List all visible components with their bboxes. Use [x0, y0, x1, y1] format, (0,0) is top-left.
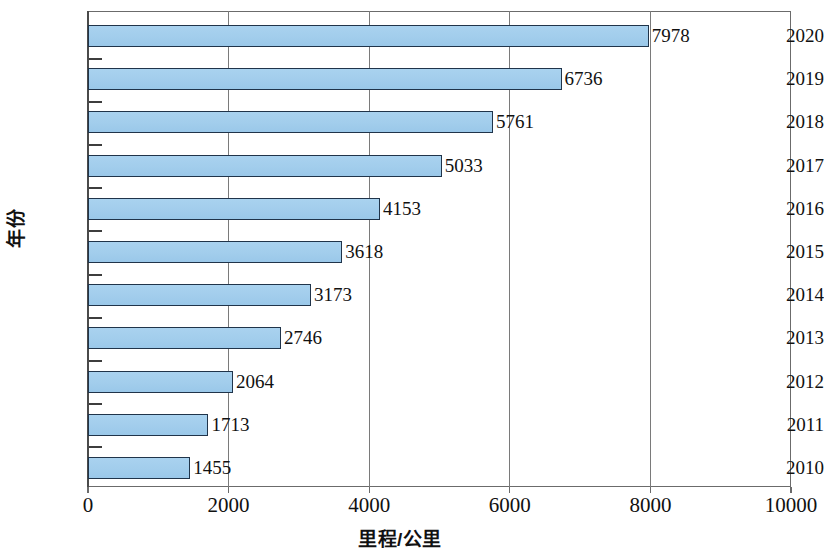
- y-axis-minor-tick: [89, 230, 102, 232]
- gridline-8000: [650, 11, 651, 487]
- bar-value-label-2014: 3173: [314, 284, 352, 306]
- x-axis-tick-label-6000: 6000: [489, 492, 531, 518]
- bar-2020: [88, 25, 649, 47]
- bar-2012: [88, 371, 233, 393]
- bar-2017: [88, 155, 442, 177]
- y-axis-category-label-2010: 2010: [742, 457, 824, 479]
- bar-value-label-2013: 2746: [284, 327, 322, 349]
- bar-2016: [88, 198, 380, 220]
- x-axis-tick-label-4000: 4000: [348, 492, 390, 518]
- bar-2011: [88, 414, 208, 436]
- y-axis-minor-tick: [89, 58, 102, 60]
- y-axis-title: 年份: [1, 200, 28, 256]
- x-axis-tick-label-8000: 8000: [629, 492, 671, 518]
- bar-2013: [88, 327, 281, 349]
- y-axis-category-label-2018: 2018: [742, 111, 824, 133]
- y-axis-category-label-2014: 2014: [742, 284, 824, 306]
- y-axis-minor-tick: [89, 144, 102, 146]
- y-axis-minor-tick: [89, 403, 102, 405]
- bar-value-label-2020: 7978: [652, 25, 690, 47]
- bar-value-label-2015: 3618: [345, 241, 383, 263]
- y-axis-category-label-2017: 2017: [742, 155, 824, 177]
- y-axis-minor-tick: [89, 446, 102, 448]
- bar-value-label-2012: 2064: [236, 371, 274, 393]
- y-axis-category-label-2015: 2015: [742, 241, 824, 263]
- x-axis-title: 里程/公里: [0, 524, 824, 551]
- y-axis-minor-tick: [89, 360, 102, 362]
- y-axis-minor-tick: [89, 101, 102, 103]
- bar-2010: [88, 457, 190, 479]
- y-axis-category-label-2011: 2011: [742, 414, 824, 436]
- bar-chart: 7978673657615033415336183173274620641713…: [0, 0, 824, 553]
- y-axis-category-label-2019: 2019: [742, 68, 824, 90]
- bar-value-label-2010: 1455: [193, 457, 231, 479]
- y-axis-category-label-2020: 2020: [742, 25, 824, 47]
- bar-value-label-2016: 4153: [383, 198, 421, 220]
- bar-2018: [88, 111, 493, 133]
- y-axis-category-label-2016: 2016: [742, 198, 824, 220]
- bar-2014: [88, 284, 311, 306]
- x-axis-tick-label-10000: 10000: [765, 492, 818, 518]
- bar-value-label-2019: 6736: [565, 68, 603, 90]
- bar-2015: [88, 241, 342, 263]
- bar-value-label-2011: 1713: [211, 414, 249, 436]
- y-axis-minor-tick: [89, 274, 102, 276]
- bar-value-label-2017: 5033: [445, 155, 483, 177]
- x-axis-tick-label-2000: 2000: [208, 492, 250, 518]
- bar-value-label-2018: 5761: [496, 111, 534, 133]
- y-axis-minor-tick: [89, 317, 102, 319]
- x-axis-title-text: 里程/公里: [358, 524, 442, 551]
- bar-2019: [88, 68, 562, 90]
- y-axis-category-label-2012: 2012: [742, 371, 824, 393]
- x-axis-tick-label-0: 0: [83, 492, 94, 518]
- y-axis-minor-tick: [89, 187, 102, 189]
- y-axis-category-label-2013: 2013: [742, 327, 824, 349]
